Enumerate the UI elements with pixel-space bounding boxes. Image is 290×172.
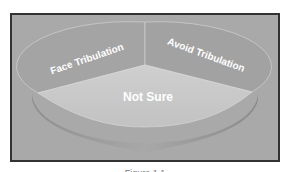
label-not-sure: Not Sure — [123, 90, 173, 104]
pie-chart: Face Tribulation Avoid Tribulation Not S… — [0, 0, 290, 172]
figure-caption: Figure 1.1 — [0, 168, 290, 172]
